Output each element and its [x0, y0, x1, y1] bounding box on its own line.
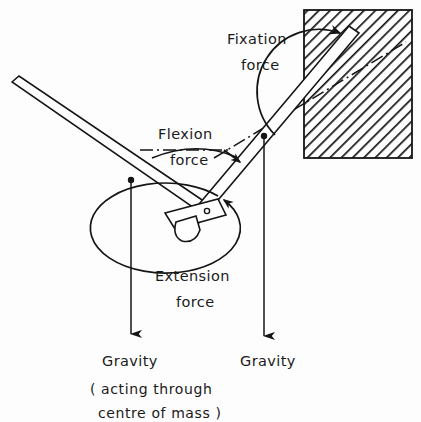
hinge-joint [165, 199, 226, 242]
pivot-hole [204, 208, 209, 213]
gravity-note-line1: ( acting through [90, 381, 212, 397]
gravity-label-left: Gravity [102, 353, 158, 369]
diagram-canvas: Fixation force Flexion force Extension f… [0, 0, 421, 422]
extension-force-label-line1: Extension [155, 268, 230, 284]
biomechanics-force-diagram: Fixation force Flexion force Extension f… [0, 0, 421, 422]
flexion-force-label-line2: force [170, 152, 209, 168]
flexion-force-label-line1: Flexion [158, 126, 213, 142]
flexion-force-arrowhead [224, 150, 240, 162]
gravity-label-right: Gravity [240, 353, 296, 369]
fixation-force-label-line2: force [241, 57, 280, 73]
gravity-note-line2: centre of mass ) [98, 405, 221, 421]
extension-force-label-line2: force [176, 294, 215, 310]
gravity-vector-left [128, 177, 134, 334]
fixation-force-label-line1: Fixation [227, 31, 287, 47]
gravity-vector-right [261, 133, 267, 336]
